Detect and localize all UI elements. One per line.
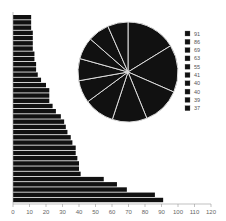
bar [13, 15, 31, 19]
bar [13, 104, 53, 108]
bar [13, 46, 33, 50]
bar [13, 119, 64, 123]
legend-label: 55 [194, 64, 200, 70]
bar [13, 57, 34, 61]
bar [13, 67, 36, 71]
bar [13, 78, 41, 82]
bar [13, 135, 71, 139]
legend-label: 39 [194, 97, 200, 103]
legend-swatch [185, 31, 190, 36]
bar [13, 93, 49, 97]
legend-swatch [185, 48, 190, 53]
pie-chart [78, 22, 178, 122]
legend-swatch [185, 56, 190, 61]
legend-label: 40 [194, 80, 200, 86]
bar [13, 99, 49, 103]
bar [13, 161, 79, 165]
x-tick-label: 0 [11, 209, 15, 215]
bar [13, 62, 36, 66]
legend-swatch [185, 89, 190, 94]
legend-swatch [185, 39, 190, 44]
legend-label: 41 [194, 72, 200, 78]
legend-label: 37 [194, 105, 200, 111]
x-tick-label: 70 [125, 209, 132, 215]
x-tick-label: 30 [59, 209, 66, 215]
x-tick-label: 60 [109, 209, 116, 215]
bar [13, 36, 33, 40]
x-tick-label: 10 [26, 209, 33, 215]
legend-swatch [185, 73, 190, 78]
bar [13, 177, 104, 181]
bar [13, 198, 163, 202]
legend-swatch [185, 97, 190, 102]
bar [13, 130, 67, 134]
bar [13, 140, 72, 144]
bar [13, 156, 77, 160]
x-tick-label: 40 [76, 209, 83, 215]
bar [13, 125, 66, 129]
x-tick-label: 80 [142, 209, 149, 215]
bar [13, 187, 127, 191]
legend-label: 91 [194, 31, 200, 37]
bar [13, 41, 33, 45]
bar [13, 146, 76, 150]
legend-label: 69 [194, 47, 200, 53]
bar [13, 109, 56, 113]
bar [13, 72, 38, 76]
bar [13, 114, 61, 118]
bar [13, 172, 81, 176]
x-tick-label: 50 [92, 209, 99, 215]
legend-label: 63 [194, 55, 200, 61]
x-tick-label: 120 [206, 209, 217, 215]
bar [13, 88, 49, 92]
x-tick-label: 110 [190, 209, 200, 215]
x-tick-label: 90 [158, 209, 165, 215]
bar [13, 83, 46, 87]
bar [13, 31, 33, 35]
x-tick-label: 20 [43, 209, 50, 215]
bar [13, 151, 76, 155]
bar [13, 25, 31, 29]
legend-label: 40 [194, 89, 200, 95]
bar [13, 52, 34, 56]
legend: 91866963554140403937 [185, 31, 200, 112]
x-tick-label: 100 [173, 209, 184, 215]
bar [13, 193, 155, 197]
legend-swatch [185, 64, 190, 69]
legend-swatch [185, 106, 190, 111]
bar [13, 166, 79, 170]
legend-label: 86 [194, 39, 200, 45]
bar [13, 182, 117, 186]
bar [13, 20, 31, 24]
legend-swatch [185, 81, 190, 86]
chart: 0102030405060708090100110120 91866963554… [0, 0, 226, 221]
